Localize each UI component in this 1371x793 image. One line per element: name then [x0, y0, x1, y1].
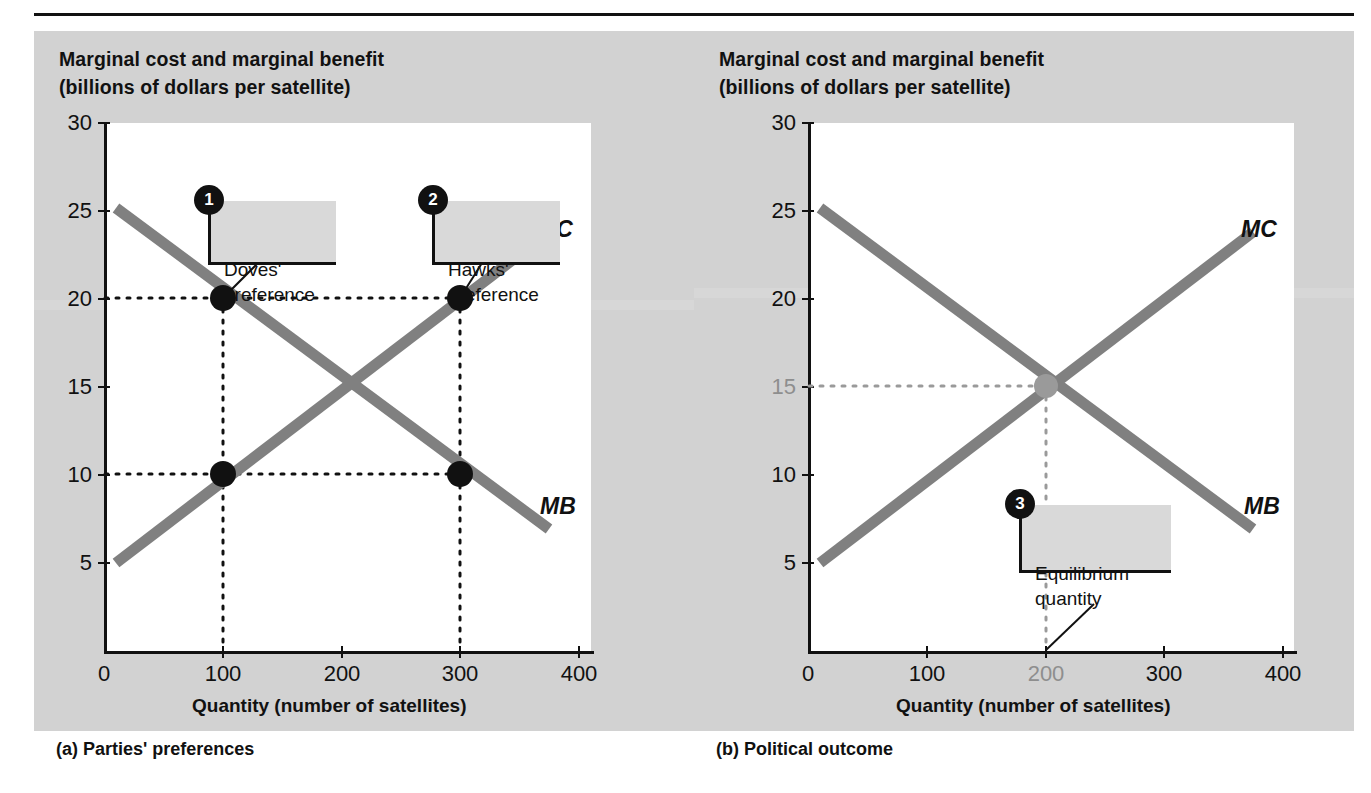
callout-doves-preference: 1 Doves' preference: [208, 201, 336, 265]
point-equilibrium-b: [1034, 374, 1058, 398]
point-hawks-mb-a: [447, 461, 473, 487]
callout-badge-2: 2: [418, 185, 448, 215]
chart-graphics-a: [34, 31, 694, 731]
callout-equilibrium-quantity: 3 Equilibrium quantity: [1019, 505, 1171, 573]
chart-panel-b: Marginal cost and marginal benefit (bill…: [694, 31, 1354, 731]
callout-badge-3: 3: [1005, 489, 1035, 519]
x-axis-title-b: Quantity (number of satellites): [896, 695, 1170, 717]
curve-label-mc-b: MC: [1241, 216, 1277, 243]
chart-graphics-b: [694, 31, 1354, 731]
callout-badge-1: 1: [194, 185, 224, 215]
panel-caption-b: (b) Political outcome: [716, 739, 893, 760]
callout-hawks-preference: 2 Hawks' preference: [432, 201, 560, 265]
curve-label-mb-b: MB: [1244, 493, 1280, 520]
point-doves-mc-a: [210, 461, 236, 487]
chart-panel-a: Marginal cost and marginal benefit (bill…: [34, 31, 694, 731]
top-rule: [34, 13, 1354, 16]
curve-mb-b: [820, 208, 1253, 529]
curve-label-mb-a: MB: [540, 493, 576, 520]
panel-caption-a: (a) Parties' preferences: [56, 739, 254, 760]
x-axis-title-a: Quantity (number of satellites): [192, 695, 466, 717]
figure-root: Marginal cost and marginal benefit (bill…: [0, 0, 1371, 793]
